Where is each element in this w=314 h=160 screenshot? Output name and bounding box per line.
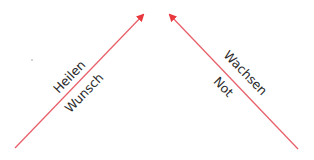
stray-dot [31, 59, 33, 61]
arrows-diagram [0, 0, 314, 160]
left-arrow [15, 15, 143, 148]
right-arrow [170, 15, 298, 149]
